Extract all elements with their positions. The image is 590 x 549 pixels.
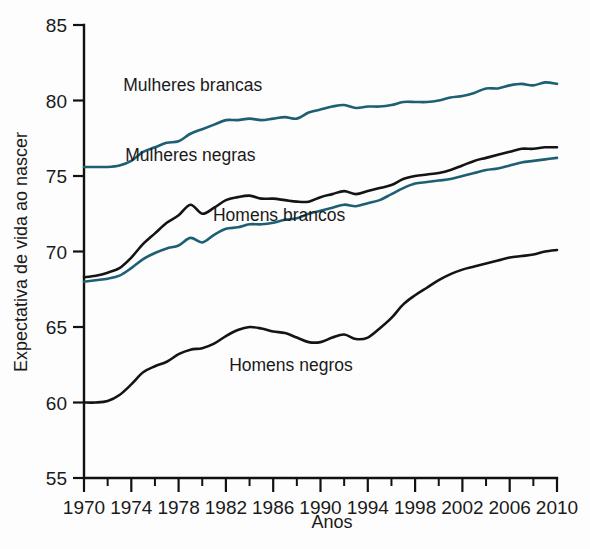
series-label-homens-negros: Homens negros — [229, 355, 353, 375]
x-tick-label-2010: 2010 — [536, 497, 578, 518]
x-tick-label-1982: 1982 — [205, 497, 247, 518]
x-tick-label-2002: 2002 — [441, 497, 483, 518]
y-axis-tick-labels: 55606570758085 — [46, 15, 67, 489]
y-tick-label-75: 75 — [46, 166, 67, 187]
y-tick-label-85: 85 — [46, 15, 67, 36]
series-label-mulheres-negras: Mulheres negras — [125, 145, 256, 165]
x-tick-label-1986: 1986 — [252, 497, 294, 518]
y-tick-label-80: 80 — [46, 91, 67, 112]
x-tick-label-1970: 1970 — [63, 497, 105, 518]
x-tick-label-1994: 1994 — [347, 497, 390, 518]
chart-page: 55606570758085 1970197419781982198619901… — [0, 0, 590, 549]
y-tick-label-65: 65 — [46, 317, 67, 338]
x-tick-label-1998: 1998 — [394, 497, 436, 518]
y-tick-label-70: 70 — [46, 242, 67, 263]
x-tick-label-2006: 2006 — [489, 497, 531, 518]
x-tick-label-1974: 1974 — [110, 497, 153, 518]
x-axis-title: Anos — [311, 512, 352, 532]
y-tick-label-60: 60 — [46, 393, 67, 414]
y-axis-ticks — [73, 25, 84, 478]
x-axis-ticks — [84, 478, 557, 492]
y-axis-title: Expectativa de vida ao nascer — [11, 132, 31, 372]
series-line-homens-negros — [84, 250, 557, 403]
y-tick-label-55: 55 — [46, 468, 67, 489]
x-tick-label-1978: 1978 — [157, 497, 199, 518]
life-expectancy-line-chart: 55606570758085 1970197419781982198619901… — [0, 0, 590, 549]
series-label-mulheres-brancas: Mulheres brancas — [123, 75, 262, 95]
series-label-homens-brancos: Homens brancos — [213, 205, 346, 225]
